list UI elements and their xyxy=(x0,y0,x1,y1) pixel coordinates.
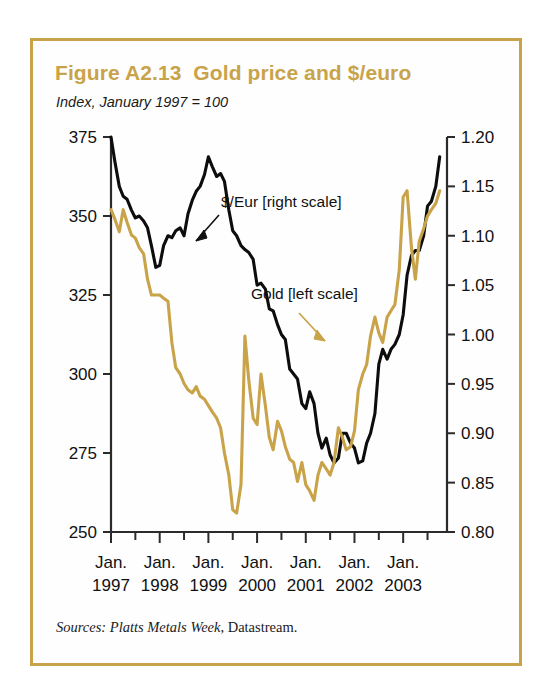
x-axis-tick-label-year: 2002 xyxy=(336,576,374,595)
right-axis-tick-label: 0.85 xyxy=(461,474,494,493)
right-axis-tick-label: 1.15 xyxy=(461,177,494,196)
source-publication: Platts Metals Week xyxy=(110,619,221,635)
right-axis-tick-label: 1.00 xyxy=(461,326,494,345)
source-label: Sources: xyxy=(56,619,110,635)
annotation-arrowhead-dollar-euro xyxy=(196,230,207,241)
right-axis-tick-label: 1.20 xyxy=(461,128,494,147)
left-axis-tick-label: 300 xyxy=(69,365,97,384)
left-axis-tick-label: 325 xyxy=(69,286,97,305)
left-axis-tick-label: 350 xyxy=(69,207,97,226)
chart-plot: 2502753003253503750.800.850.900.951.001.… xyxy=(33,41,519,601)
right-axis-tick-label: 0.90 xyxy=(461,424,494,443)
right-axis-tick-label: 0.95 xyxy=(461,375,494,394)
annotation-gold: Gold [left scale] xyxy=(251,285,358,302)
right-axis-tick-label: 1.10 xyxy=(461,227,494,246)
left-axis-tick-label: 375 xyxy=(69,128,97,147)
x-axis-tick-label-month: Jan. xyxy=(144,553,176,572)
x-axis-tick-label-year: 2001 xyxy=(287,576,325,595)
x-axis-tick-label-month: Jan. xyxy=(290,553,322,572)
x-axis-tick-label-year: 1999 xyxy=(189,576,227,595)
right-axis-tick-label: 0.80 xyxy=(461,523,494,542)
figure-source: Sources: Platts Metals Week, Datastream. xyxy=(56,619,297,636)
annotation-dollar-euro: $/Eur [right scale] xyxy=(221,193,342,210)
x-axis-tick-label-month: Jan. xyxy=(192,553,224,572)
left-axis-tick-label: 250 xyxy=(69,523,97,542)
x-axis-tick-label-month: Jan. xyxy=(338,553,370,572)
x-axis-tick-label-year: 1998 xyxy=(141,576,179,595)
x-axis-tick-label-month: Jan. xyxy=(387,553,419,572)
right-axis-tick-label: 1.05 xyxy=(461,276,494,295)
left-axis-tick-label: 275 xyxy=(69,444,97,463)
x-axis-tick-label-year: 2000 xyxy=(238,576,276,595)
source-rest: , Datastream. xyxy=(220,619,297,635)
x-axis-tick-label-month: Jan. xyxy=(241,553,273,572)
figure-frame: Figure A2.13 Gold price and $/euro Index… xyxy=(30,38,522,666)
x-axis-tick-label-month: Jan. xyxy=(95,553,127,572)
x-axis-tick-label-year: 1997 xyxy=(92,576,130,595)
x-axis-tick-label-year: 2003 xyxy=(384,576,422,595)
